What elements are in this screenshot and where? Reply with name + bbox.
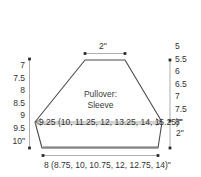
schematic-diagram: 2" 7 7.5 8 8.5 9 9.5 10" 5 5.5 6 6.5 7 7… bbox=[0, 0, 201, 177]
left-scale-value-4: 9 bbox=[0, 109, 25, 122]
right-scale-value-3: 6.5 bbox=[175, 78, 201, 91]
right-scale-values: 5 5.5 6 6.5 7 7.5 8" bbox=[175, 40, 201, 128]
right-dimension-line-upper bbox=[169, 59, 172, 123]
garment-title-line-2: Sleeve bbox=[63, 100, 138, 111]
left-scale-value-1: 7.5 bbox=[0, 72, 25, 85]
top-width-label: 2" bbox=[99, 41, 107, 51]
right-scale-value-5: 7.5 bbox=[175, 103, 201, 116]
left-scale-values: 7 7.5 8 8.5 9 9.5 10" bbox=[0, 59, 25, 147]
right-scale-value-0: 5 bbox=[175, 40, 201, 53]
right-scale-value-4: 7 bbox=[175, 90, 201, 103]
left-scale-value-6: 10" bbox=[0, 135, 25, 148]
left-dimension-line bbox=[28, 58, 31, 150]
upper-arm-width-label: 9.25 (10, 11.25, 12, 13.25, 14, 15.25)" bbox=[39, 117, 182, 127]
left-scale-value-5: 9.5 bbox=[0, 122, 25, 135]
right-scale-value-1: 5.5 bbox=[175, 53, 201, 66]
cap-depth-label: 2" bbox=[176, 128, 184, 138]
cuff-width-label: 8 (8.75, 10, 10.75, 12, 12.75, 14)" bbox=[44, 160, 171, 170]
garment-title: Pullover: Sleeve bbox=[63, 89, 138, 111]
top-dimension-line bbox=[84, 52, 127, 55]
garment-title-line-1: Pullover: bbox=[63, 89, 138, 100]
left-scale-value-2: 8 bbox=[0, 84, 25, 97]
bottom-dimension-line bbox=[42, 154, 160, 157]
left-scale-value-0: 7 bbox=[0, 59, 25, 72]
left-scale-value-3: 8.5 bbox=[0, 97, 25, 110]
right-scale-value-2: 6 bbox=[175, 65, 201, 78]
